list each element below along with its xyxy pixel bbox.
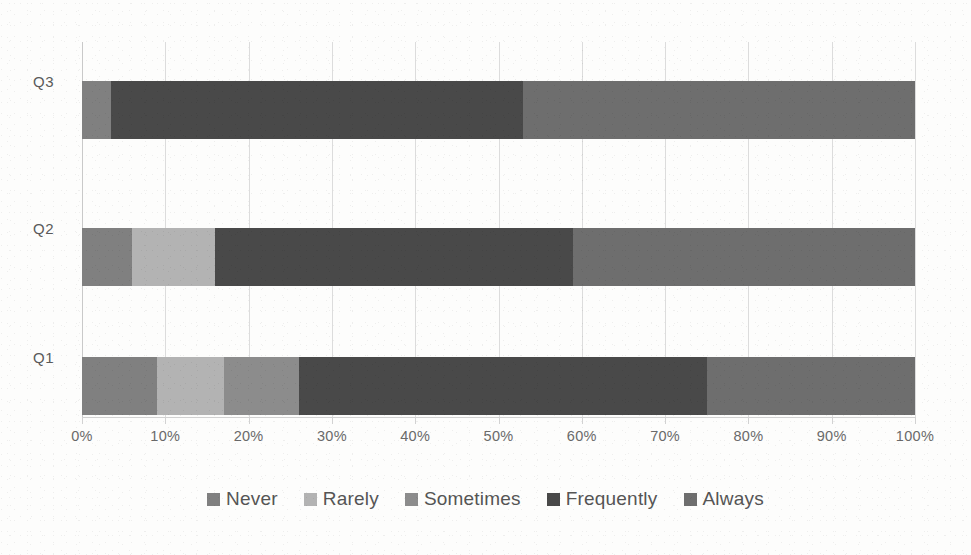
segment-q2-always[interactable]	[573, 228, 915, 286]
segment-q1-frequently[interactable]	[299, 357, 707, 415]
tick-mark-0	[82, 418, 83, 424]
legend-swatch-sometimes-icon	[405, 493, 418, 506]
chart-page: Q3Q2Q1 0%10%20%30%40%50%60%70%80%90%100%…	[0, 0, 971, 555]
tick-mark-70	[665, 418, 666, 424]
segment-q1-sometimes[interactable]	[224, 357, 299, 415]
tick-mark-60	[582, 418, 583, 424]
chart-legend: NeverRarelySometimesFrequentlyAlways	[0, 488, 971, 510]
plot-area	[82, 42, 915, 417]
x-axis-ticks: 0%10%20%30%40%50%60%70%80%90%100%	[0, 418, 971, 448]
tick-mark-40	[415, 418, 416, 424]
tick-label-80: 80%	[733, 428, 763, 444]
tick-mark-20	[249, 418, 250, 424]
category-label-q3: Q3	[0, 73, 54, 90]
tick-label-20: 20%	[234, 428, 264, 444]
legend-swatch-rarely-icon	[304, 493, 317, 506]
tick-label-0: 0%	[71, 428, 93, 444]
segment-q3-always[interactable]	[523, 81, 915, 139]
category-label-q1: Q1	[0, 349, 54, 366]
bar-q1[interactable]	[82, 357, 915, 415]
legend-label-always: Always	[703, 488, 764, 510]
legend-item-never[interactable]: Never	[207, 488, 278, 510]
tick-mark-90	[832, 418, 833, 424]
segment-q2-frequently[interactable]	[215, 228, 573, 286]
tick-mark-100	[915, 418, 916, 424]
segment-q1-never[interactable]	[82, 357, 157, 415]
legend-swatch-never-icon	[207, 493, 220, 506]
tick-label-30: 30%	[317, 428, 347, 444]
legend-label-sometimes: Sometimes	[424, 488, 521, 510]
tick-label-70: 70%	[650, 428, 680, 444]
segment-q1-always[interactable]	[707, 357, 915, 415]
segment-q2-never[interactable]	[82, 228, 132, 286]
tick-mark-50	[499, 418, 500, 424]
category-label-q2: Q2	[0, 220, 54, 237]
segment-q3-never[interactable]	[82, 81, 111, 139]
tick-label-50: 50%	[484, 428, 514, 444]
segment-q3-frequently[interactable]	[111, 81, 523, 139]
legend-label-rarely: Rarely	[323, 488, 379, 510]
legend-label-frequently: Frequently	[566, 488, 658, 510]
tick-label-100: 100%	[896, 428, 934, 444]
legend-swatch-always-icon	[684, 493, 697, 506]
segment-q2-rarely[interactable]	[132, 228, 215, 286]
legend-item-sometimes[interactable]: Sometimes	[405, 488, 521, 510]
tick-mark-80	[748, 418, 749, 424]
legend-item-always[interactable]: Always	[684, 488, 764, 510]
tick-mark-30	[332, 418, 333, 424]
legend-item-rarely[interactable]: Rarely	[304, 488, 379, 510]
tick-mark-10	[165, 418, 166, 424]
bar-q3[interactable]	[82, 81, 915, 139]
tick-label-40: 40%	[400, 428, 430, 444]
tick-label-60: 60%	[567, 428, 597, 444]
tick-label-90: 90%	[817, 428, 847, 444]
gridline-100	[915, 42, 916, 417]
legend-swatch-frequently-icon	[547, 493, 560, 506]
legend-item-frequently[interactable]: Frequently	[547, 488, 658, 510]
legend-label-never: Never	[226, 488, 278, 510]
tick-label-10: 10%	[150, 428, 180, 444]
segment-q1-rarely[interactable]	[157, 357, 224, 415]
bar-q2[interactable]	[82, 228, 915, 286]
